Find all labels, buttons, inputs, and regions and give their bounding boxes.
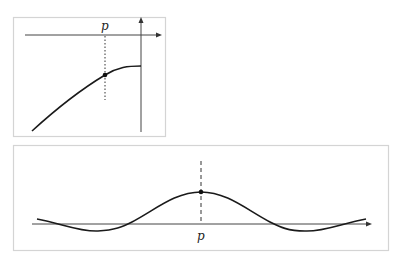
- top-point-label: p: [101, 19, 109, 33]
- diagram: p p: [0, 0, 400, 261]
- bottom-panel: p: [14, 146, 389, 251]
- top-panel: p: [14, 17, 166, 137]
- top-point-marker: [103, 73, 108, 78]
- bottom-point-label: p: [197, 229, 205, 243]
- bottom-peak-marker: [199, 190, 204, 195]
